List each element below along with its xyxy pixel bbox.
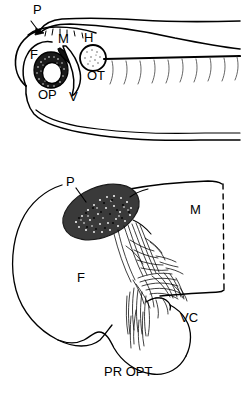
label-M-bottom: M xyxy=(190,202,201,217)
forebrain-enlarged-drawing: P M F VC PR OPT xyxy=(0,150,241,403)
panel-forebrain-enlarged: P M F VC PR OPT xyxy=(0,150,241,403)
label-P-top: P xyxy=(33,2,42,17)
midbrain-dashed-boundary xyxy=(223,184,224,289)
label-OP-top: OP xyxy=(38,87,57,102)
midbrain-top-boundary xyxy=(124,181,222,190)
label-P-bottom: P xyxy=(66,174,75,189)
label-M-top: M xyxy=(58,31,69,46)
embryo-lateral-drawing: P M H F OP V OT xyxy=(0,0,241,150)
label-OT-top: OT xyxy=(87,68,105,83)
label-VC-bottom: VC xyxy=(180,310,198,325)
label-F-top: F xyxy=(30,47,38,62)
notochord-line xyxy=(104,56,240,59)
label-H-top: H xyxy=(84,30,93,45)
label-PROPT-bottom: PR OPT xyxy=(104,364,152,379)
somite-striations xyxy=(110,57,238,84)
pineal-stalk-connector xyxy=(133,220,151,234)
axon-fiber-tracts xyxy=(114,223,187,350)
label-V-top: V xyxy=(69,89,78,104)
label-F-bottom: F xyxy=(77,270,85,285)
panel-whole-embryo-lateral: P M H F OP V OT xyxy=(0,0,241,150)
figure-root: P M H F OP V OT xyxy=(0,0,241,403)
